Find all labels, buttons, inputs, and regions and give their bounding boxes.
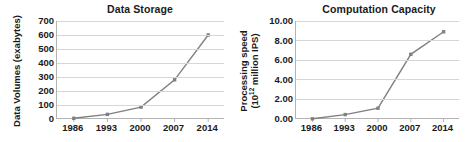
chart-title-data-storage: Data Storage bbox=[56, 3, 224, 15]
chart-panel-data-storage: Data Storage Data Volumes (exabytes) 010… bbox=[0, 0, 233, 142]
y-axis-tick-label: 6.00 bbox=[275, 55, 294, 65]
y-axis-tick-label: 600 bbox=[38, 30, 54, 40]
x-axis-tick-label: 1993 bbox=[96, 123, 117, 133]
gridline bbox=[57, 49, 224, 50]
y-axis-tick-labels-computation-capacity: 0.002.004.006.008.0010.00 bbox=[249, 21, 293, 119]
y-axis-tick-label: 300 bbox=[38, 72, 54, 82]
data-point-marker bbox=[344, 113, 347, 116]
x-axis-tick-label: 2014 bbox=[432, 123, 453, 133]
data-line bbox=[312, 32, 443, 119]
data-point-marker bbox=[139, 105, 142, 108]
y-axis-tick-label: 200 bbox=[38, 86, 54, 96]
gridline bbox=[57, 77, 224, 78]
x-axis-tick-label: 2007 bbox=[163, 123, 184, 133]
chart-title-computation-capacity: Computation Capacity bbox=[295, 3, 463, 15]
gridline bbox=[296, 99, 459, 100]
x-axis-tick-label: 2007 bbox=[399, 123, 420, 133]
x-axis-tick-label: 2000 bbox=[366, 123, 387, 133]
data-point-marker bbox=[311, 117, 314, 120]
x-axis-tick-label: 1986 bbox=[301, 123, 322, 133]
x-axis-tick-labels-computation-capacity: 19861993200020072014 bbox=[295, 123, 459, 137]
y-axis-tick-label: 4.00 bbox=[275, 75, 294, 85]
gridline bbox=[57, 105, 224, 106]
gridline bbox=[296, 21, 459, 22]
x-axis-tick-label: 2014 bbox=[197, 123, 218, 133]
gridline bbox=[296, 60, 459, 61]
y-axis-tick-label: 0 bbox=[49, 114, 54, 124]
y-axis-tick-label: 500 bbox=[38, 44, 54, 54]
dual-chart-figure: Data Storage Data Volumes (exabytes) 010… bbox=[0, 0, 465, 142]
x-axis-tick-label: 2000 bbox=[129, 123, 150, 133]
data-point-marker bbox=[409, 53, 412, 56]
y-axis-title-line1: Processing speed bbox=[238, 30, 249, 111]
x-axis-tick-label: 1993 bbox=[334, 123, 355, 133]
data-point-marker bbox=[442, 30, 445, 33]
gridline bbox=[57, 91, 224, 92]
y-axis-tick-label: 400 bbox=[38, 58, 54, 68]
y-axis-tick-label: 2.00 bbox=[275, 95, 294, 105]
data-point-marker bbox=[376, 107, 379, 110]
y-axis-tick-label: 8.00 bbox=[275, 36, 294, 46]
y-axis-tick-label: 700 bbox=[38, 16, 54, 26]
y-axis-tick-label: 10.00 bbox=[269, 16, 293, 26]
gridline bbox=[296, 40, 459, 41]
y-axis-tick-label: 0.00 bbox=[275, 114, 294, 124]
gridline bbox=[296, 79, 459, 80]
chart-panel-computation-capacity: Computation Capacity Processing speed (1… bbox=[233, 0, 465, 142]
x-axis-tick-labels-data-storage: 19861993200020072014 bbox=[56, 123, 224, 137]
gridline bbox=[57, 21, 224, 22]
x-axis-tick-label: 1986 bbox=[62, 123, 83, 133]
gridline bbox=[57, 35, 224, 36]
plot-area-computation-capacity bbox=[295, 21, 459, 119]
plot-area-data-storage bbox=[56, 21, 224, 119]
data-point-marker bbox=[173, 78, 176, 81]
data-point-marker bbox=[72, 117, 75, 120]
gridline bbox=[57, 63, 224, 64]
y-axis-tick-label: 100 bbox=[38, 100, 54, 110]
series-line-computation-capacity bbox=[296, 21, 460, 119]
data-point-marker bbox=[106, 113, 109, 116]
y-axis-tick-labels-data-storage: 0100200300400500600700 bbox=[22, 21, 54, 119]
